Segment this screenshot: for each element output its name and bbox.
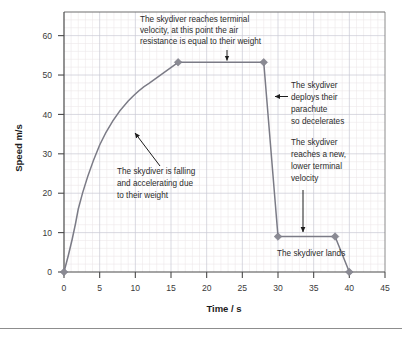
x-tick-label: 20 xyxy=(202,283,212,293)
footer-divider xyxy=(0,328,402,329)
annotation-line: The skydiver xyxy=(291,138,338,147)
annotation-line: velocity xyxy=(291,174,319,183)
y-axis-title: Speed m/s xyxy=(13,124,24,172)
y-tick-label: 40 xyxy=(42,110,52,120)
x-tick-label: 0 xyxy=(62,283,67,293)
x-tick-label: 35 xyxy=(309,283,319,293)
y-tick-label: 20 xyxy=(42,188,52,198)
annotation-line: reaches a new, xyxy=(291,150,346,159)
x-tick-label: 25 xyxy=(238,283,248,293)
annotation-landing: The skydiver lands xyxy=(277,249,345,258)
skydiver-speed-time-chart: 0 10 20 30 40 50 60 0 5 10 15 20 25 30 3… xyxy=(0,0,402,337)
y-tick-label: 30 xyxy=(42,149,52,159)
annotation-line: lower terminal xyxy=(291,162,342,171)
chart-canvas: 0 10 20 30 40 50 60 0 5 10 15 20 25 30 3… xyxy=(0,0,402,337)
annotation-line: The skydiver xyxy=(291,81,338,90)
x-tick-label: 30 xyxy=(273,283,283,293)
x-tick-label: 10 xyxy=(131,283,141,293)
x-tick-label: 5 xyxy=(97,283,102,293)
x-tick-label: 15 xyxy=(166,283,176,293)
x-axis-title: Time / s xyxy=(206,303,241,314)
annotation-line: parachute xyxy=(291,105,328,114)
x-tick-label: 45 xyxy=(380,283,390,293)
x-tick-label: 40 xyxy=(345,283,355,293)
annotation-line: resistance is equal to their weight xyxy=(140,37,262,46)
annotation-line: so decelerates xyxy=(291,117,344,126)
annotation-line: The skydiver lands xyxy=(277,249,345,258)
annotation-line: The skydiver is falling xyxy=(117,167,196,176)
annotation-line: The skydiver reaches terminal xyxy=(140,15,249,24)
y-tick-label: 50 xyxy=(42,70,52,80)
y-tick-label: 10 xyxy=(42,228,52,238)
annotation-line: to their weight xyxy=(117,191,169,200)
y-tick-label: 0 xyxy=(47,267,52,277)
annotation-line: velocity, at this point the air xyxy=(140,26,238,35)
annotation-line: deploys their xyxy=(291,93,338,102)
y-tick-label: 60 xyxy=(42,31,52,41)
annotation-line: and accelerating due xyxy=(117,179,193,188)
